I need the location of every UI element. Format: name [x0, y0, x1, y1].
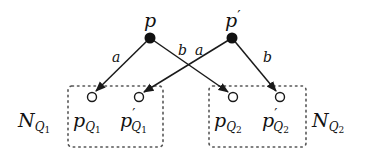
node-p-prime [227, 33, 238, 44]
node-pprimeq1 [135, 93, 144, 102]
label-nq2: NQ2 [311, 109, 344, 135]
label-p-prime: p′ [225, 7, 241, 31]
diagram-canvas: p p′ a b a b pQ1 p′Q1 pQ2 p′Q2 NQ1 NQ2 [0, 0, 372, 163]
edge-pprime-pprimeq1 [144, 38, 232, 92]
node-pq2 [229, 93, 238, 102]
label-pprimeq2: p′Q2 [262, 106, 289, 135]
label-pq2: pQ2 [214, 109, 242, 135]
edge-label-p-b: b [178, 42, 187, 58]
edge-p-pq1 [96, 38, 150, 91]
edge-label-p-a: a [112, 49, 120, 65]
diagram-svg: p p′ a b a b pQ1 p′Q1 pQ2 p′Q2 NQ1 NQ2 [0, 0, 372, 163]
node-p [145, 33, 156, 44]
edge-label-pprime-a: a [195, 42, 203, 58]
label-p: p [144, 9, 156, 31]
label-nq1: NQ1 [17, 109, 50, 135]
label-pq1: pQ1 [73, 109, 101, 135]
edge-label-pprime-b: b [263, 49, 272, 65]
node-pprimeq2 [276, 93, 285, 102]
label-pprimeq1: p′Q1 [120, 106, 147, 135]
node-pq1 [88, 93, 97, 102]
